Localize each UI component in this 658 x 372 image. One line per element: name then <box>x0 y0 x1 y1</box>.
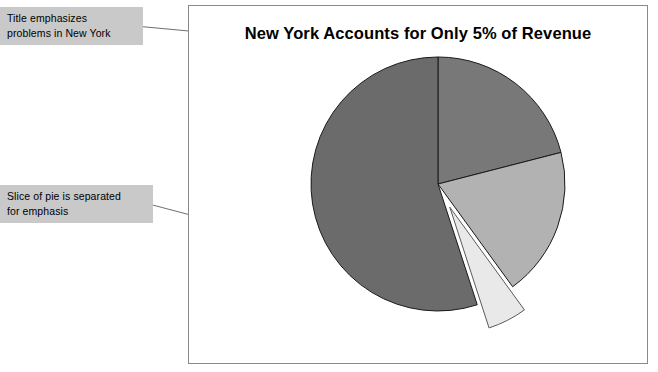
pie-label-boston-name: Boston <box>434 130 508 146</box>
screenshot-canvas: Title emphasizes problems in New York Sl… <box>0 0 658 372</box>
pie-label-boston-value: 55% <box>434 146 508 162</box>
chart-title: New York Accounts for Only 5% of Revenue <box>189 24 647 43</box>
annotation-title-note: Title emphasizes problems in New York <box>0 7 143 45</box>
pie-label-boston: Boston 55% <box>434 130 508 162</box>
annotation-slice-note: Slice of pie is separated for emphasis <box>0 185 153 223</box>
chart-frame: New York Accounts for Only 5% of Revenue… <box>188 5 648 364</box>
